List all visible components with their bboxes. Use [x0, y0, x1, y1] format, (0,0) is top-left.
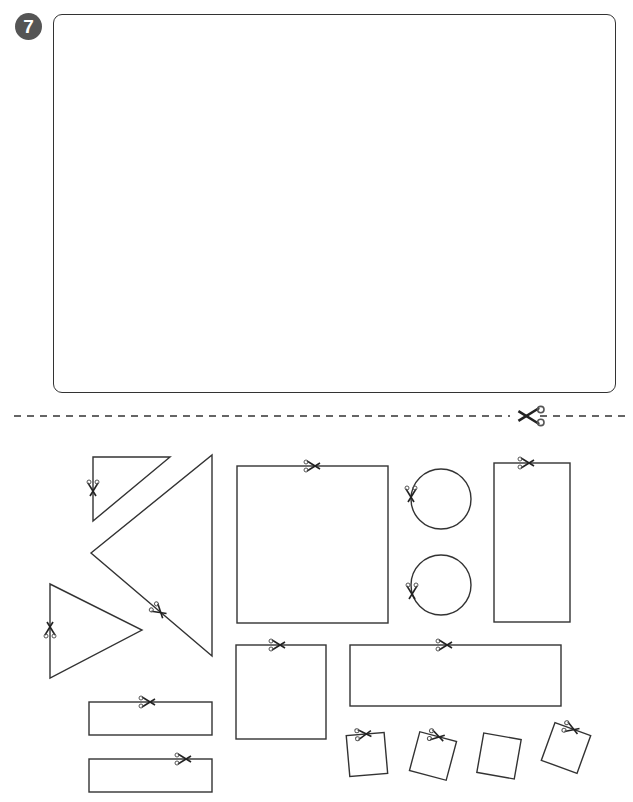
cutout-wide-rectangle[interactable]: [350, 645, 561, 706]
cutout-right-triangle[interactable]: [93, 457, 170, 521]
cutout-circle[interactable]: [411, 555, 471, 615]
cutout-medium-square[interactable]: [236, 645, 326, 739]
cutout-large-square[interactable]: [237, 466, 388, 623]
cutout-shapes-canvas: [0, 0, 633, 802]
cutout-medium-triangle[interactable]: [50, 584, 142, 678]
cutout-small-rectangle[interactable]: [89, 759, 212, 792]
cutout-large-triangle[interactable]: [91, 455, 212, 656]
cutout-small-square[interactable]: [346, 732, 387, 776]
cut-line: [14, 406, 630, 425]
cutout-circle[interactable]: [411, 469, 471, 529]
cutout-tall-rectangle[interactable]: [494, 463, 570, 622]
cutout-small-square[interactable]: [477, 733, 521, 779]
cutout-small-rectangle[interactable]: [89, 702, 212, 735]
